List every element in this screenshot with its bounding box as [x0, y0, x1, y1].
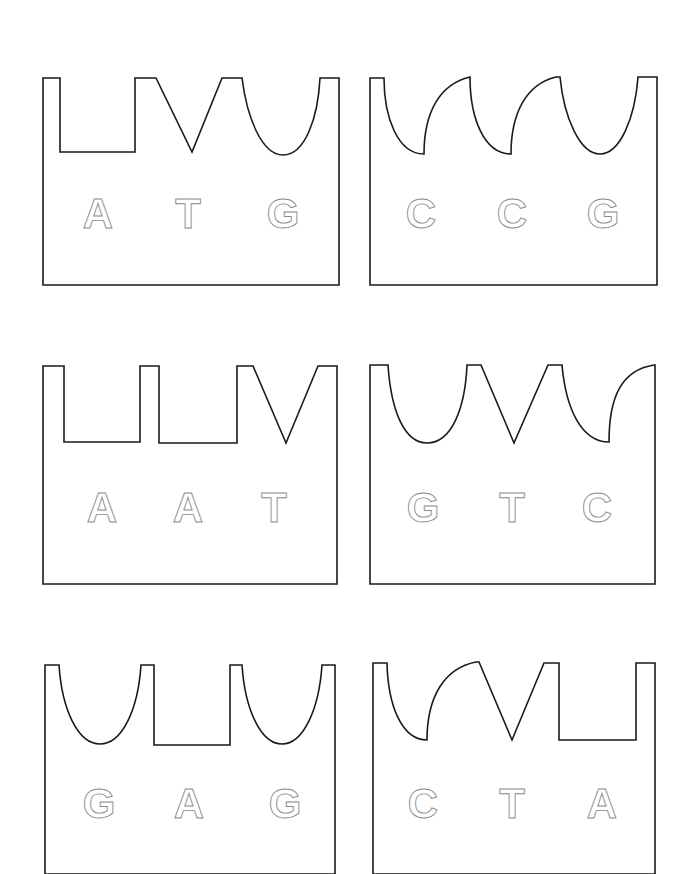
base-letter: C: [582, 484, 612, 531]
base-letter: G: [269, 780, 302, 827]
base-letter: C: [497, 190, 527, 237]
base-letter: T: [261, 484, 287, 531]
base-letter: A: [83, 190, 113, 237]
codon-cards-diagram: A T G C C G A A T G T C G A G C T A: [0, 0, 690, 874]
codon-card: A A T: [43, 366, 337, 584]
base-letter: T: [499, 780, 525, 827]
base-letter: C: [408, 780, 438, 827]
codon-card: A T G: [43, 78, 339, 285]
base-letter: T: [175, 190, 201, 237]
base-letter: T: [499, 484, 525, 531]
card-outline: [373, 662, 655, 874]
base-letter: C: [406, 190, 436, 237]
base-letter: G: [587, 190, 620, 237]
codon-card: G A G: [45, 665, 335, 874]
base-letter: A: [173, 484, 203, 531]
base-letter: A: [87, 484, 117, 531]
card-outline: [370, 77, 657, 285]
base-letter: G: [267, 190, 300, 237]
card-outline: [45, 665, 335, 874]
base-letter: G: [407, 484, 440, 531]
card-outline: [43, 78, 339, 285]
card-outline: [43, 366, 337, 584]
codon-card: C C G: [370, 77, 657, 285]
codon-card: G T C: [370, 365, 655, 584]
card-outline: [370, 365, 655, 584]
base-letter: A: [587, 780, 617, 827]
base-letter: G: [83, 780, 116, 827]
codon-card: C T A: [373, 662, 655, 874]
base-letter: A: [174, 780, 204, 827]
